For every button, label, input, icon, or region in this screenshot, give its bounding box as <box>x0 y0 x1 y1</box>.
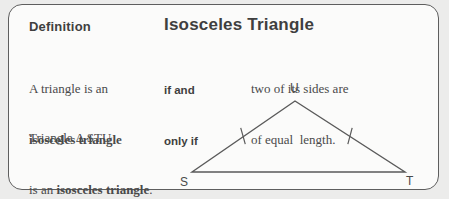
hash-mark-left-leg <box>241 128 246 144</box>
page-title: Isosceles Triangle <box>164 15 314 35</box>
definition-header-label: Definition <box>29 19 91 34</box>
vertex-label-s: S <box>180 175 188 189</box>
definition-predicate-line-2: of equal length. <box>251 131 348 148</box>
definition-connector-column: if and only if <box>164 48 198 184</box>
definition-connector-line-2: only if <box>164 133 198 150</box>
vertex-label-t: T <box>406 174 413 188</box>
explanation-line-2: is an isosceles triangle. <box>29 181 153 198</box>
explanation-line-2-prefix: is an <box>29 182 56 197</box>
page-background: Definition Isosceles Triangle A triangle… <box>0 0 449 199</box>
definition-predicate-column: two of its sides are of equal length. <box>251 46 348 182</box>
explanation-paragraph: Triangle Δ STU is an isosceles triangle.… <box>29 94 153 199</box>
hash-mark-right-leg <box>348 128 352 144</box>
vertex-label-u: U <box>290 81 299 95</box>
explanation-line-2-emphasis: isosceles triangle <box>56 182 149 197</box>
explanation-line-1: Triangle Δ STU <box>29 129 153 146</box>
definition-card: Definition Isosceles Triangle A triangle… <box>8 4 439 190</box>
explanation-line-2-suffix: . <box>149 182 152 197</box>
definition-predicate-line-1: two of its sides are <box>251 80 348 97</box>
definition-connector-line-1: if and <box>164 82 198 99</box>
